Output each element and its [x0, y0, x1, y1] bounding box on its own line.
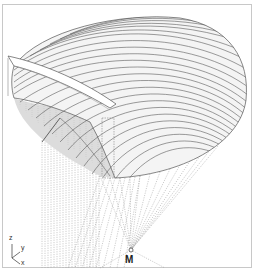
axis-y-label: y — [21, 244, 25, 251]
axis-triad — [12, 244, 20, 264]
point-m-label: M — [125, 254, 133, 265]
axis-z-label: z — [9, 234, 13, 241]
shell-diagram — [0, 0, 257, 272]
point-m-marker — [129, 248, 133, 252]
axis-x-label: x — [21, 259, 25, 266]
